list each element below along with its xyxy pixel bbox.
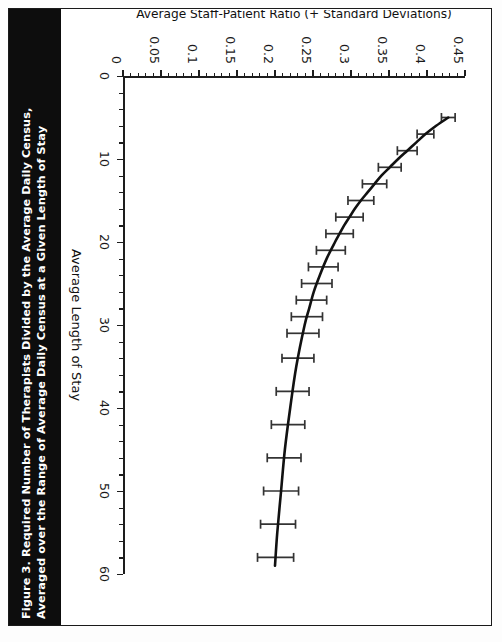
x-tick-major <box>117 574 123 575</box>
y-tick-label: 0.4 <box>413 44 428 64</box>
figure-title-bar: Figure 3. Required Number of Therapists … <box>9 9 61 625</box>
x-tick-label: 20 <box>97 234 112 250</box>
y-tick-label: 0.35 <box>375 36 390 64</box>
y-tick-label: 0.15 <box>223 36 238 64</box>
y-axis-title: Average Staff-Patient Ratio (+ Standard … <box>136 10 452 21</box>
x-tick-label: 0 <box>97 72 112 80</box>
x-tick-label: 60 <box>97 566 112 582</box>
x-tick-label: 50 <box>97 483 112 499</box>
figure-title: Figure 3. Required Number of Therapists … <box>20 108 49 625</box>
figure-title-rotation-wrapper: Figure 3. Required Number of Therapists … <box>9 9 61 625</box>
figure-page: Figure 3. Required Number of Therapists … <box>0 0 502 642</box>
x-tick-label: 10 <box>97 151 112 167</box>
y-tick-label: 0.2 <box>261 44 276 64</box>
x-axis-title: Average Length of Stay <box>69 249 84 401</box>
y-tick-label: 0.3 <box>337 44 352 64</box>
chart-rotation-wrapper: 0102030405060 00.050.10.150.20.250.30.35… <box>63 10 491 624</box>
x-tick-label: 40 <box>97 400 112 416</box>
y-tick-label: 0.45 <box>451 36 466 64</box>
plot-area: 0102030405060 00.050.10.150.20.250.30.35… <box>123 76 465 574</box>
chart-canvas: 0102030405060 00.050.10.150.20.250.30.35… <box>63 10 491 624</box>
y-tick-label: 0 <box>109 56 124 64</box>
y-tick-label: 0.1 <box>185 44 200 64</box>
y-tick-label: 0.05 <box>147 36 162 64</box>
x-tick-label: 30 <box>97 317 112 333</box>
data-series <box>123 76 465 574</box>
y-tick-label: 0.25 <box>299 36 314 64</box>
error-bars <box>258 113 456 562</box>
